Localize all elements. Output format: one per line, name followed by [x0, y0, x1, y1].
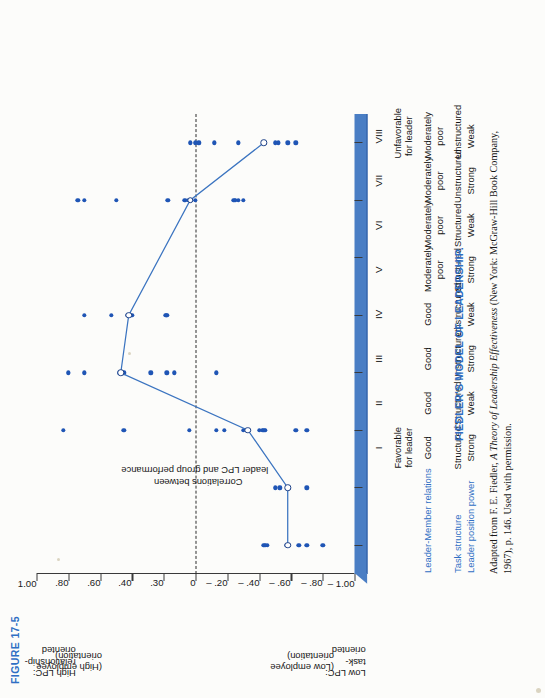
y-axis-tick-label: .30	[150, 578, 163, 589]
y-axis-tick-label: – .60	[269, 578, 290, 589]
cell-line: for leader	[402, 114, 413, 159]
x-axis-tick	[354, 545, 362, 546]
source-note: Adapted from F. E. Fiedler, A Theory of …	[486, 104, 515, 574]
favorability-v	[391, 248, 422, 293]
cell-line: Unfavorable	[391, 114, 402, 159]
y-axis-tick-label: 1.00	[17, 578, 36, 589]
leader-member-relations-viii: Moderatelypoor	[421, 114, 444, 159]
y-axis-tick-label: – .80	[301, 578, 322, 589]
median-marker	[125, 312, 131, 318]
y-axis-tick	[131, 574, 132, 581]
x-axis-tick	[354, 200, 362, 201]
cell-line: poor	[433, 114, 444, 159]
row-label-favorability	[391, 470, 422, 574]
cell-line: poor	[433, 159, 444, 204]
figure-title: FIEDLER'S MODEL OF LEADERSHIP.	[452, 114, 464, 574]
figure-number-label: FIGURE 17-5	[8, 616, 20, 684]
leader-member-relations-iii: Good	[421, 337, 444, 382]
row-label-blank	[372, 470, 391, 574]
y-axis-tick-label: 0	[190, 578, 195, 589]
favorability-iv	[391, 292, 422, 337]
leader-member-relations-iv: Good	[421, 292, 444, 337]
y-axis-tick-label: .60	[86, 578, 99, 589]
favorability-vi	[391, 203, 422, 248]
plot-area: 1.00.80.60.40.300– .20– .40– .60– .80– 1…	[36, 114, 354, 574]
y-axis-tick-label: – .40	[237, 578, 258, 589]
cell-line: Moderately	[421, 114, 432, 159]
favorability-iii	[391, 337, 422, 382]
cell-line: for leader	[402, 426, 413, 471]
octant-numeral-iii: III	[372, 337, 391, 382]
cell-line: Moderately	[421, 203, 432, 248]
favorability-ii	[391, 381, 422, 426]
x-axis-band	[354, 114, 367, 574]
y-axis-tick-label: .80	[54, 578, 67, 589]
x-axis-tick	[354, 430, 362, 431]
table-row-octant-numerals: IIIIIIIVVVIVIIVIII	[372, 114, 391, 574]
y-axis-tick-label: – 1.00	[327, 578, 354, 589]
leader-member-relations-vii: Moderatelypoor	[421, 159, 444, 204]
octant-numeral-i: I	[372, 426, 391, 471]
octant-numeral-viii: VIII	[372, 114, 391, 159]
x-axis-tick	[354, 372, 362, 373]
x-axis-tick	[354, 487, 362, 488]
median-marker	[260, 140, 266, 146]
leader-member-relations-ii: Good	[421, 381, 444, 426]
x-axis-tick	[354, 142, 362, 143]
source-note-prefix: Adapted from F. E. Fiedler,	[487, 460, 498, 574]
favorability-i: Favorablefor leader	[391, 426, 422, 471]
source-note-title: A Theory of Leadership Effectiveness	[487, 308, 498, 460]
median-marker	[117, 370, 123, 376]
figure-page: FIGURE 17-5 1.00.80.60.40.300– .20– .40–…	[0, 0, 545, 698]
favorability-vii	[391, 159, 422, 204]
x-axis-tick	[354, 257, 362, 258]
octant-numeral-ii: II	[372, 381, 391, 426]
median-marker	[244, 427, 250, 433]
octant-numeral-iv: IV	[372, 292, 391, 337]
y-axis-tick	[290, 574, 291, 581]
x-axis-band-bevel	[354, 573, 367, 584]
leader-member-relations-v: Moderatelypoor	[421, 248, 444, 293]
octant-numeral-v: V	[372, 248, 391, 293]
leader-member-relations-i: Good	[421, 426, 444, 471]
median-marker	[284, 542, 290, 548]
y-axis-tick-label: .40	[118, 578, 131, 589]
row-label-leader-member-relations: Leader-Member relations	[421, 470, 444, 574]
rotated-figure-container: FIGURE 17-5 1.00.80.60.40.300– .20– .40–…	[0, 0, 545, 698]
scatter-plot: 1.00.80.60.40.300– .20– .40– .60– .80– 1…	[36, 114, 354, 574]
median-marker	[186, 197, 192, 203]
table-row-leader-member-relations: Leader-Member relations GoodGoodGoodGood…	[421, 114, 444, 574]
cell-line: Favorable	[391, 426, 402, 471]
median-connector-line	[36, 114, 354, 574]
leader-member-relations-vi: Moderatelypoor	[421, 203, 444, 248]
favorability-viii: Unfavorablefor leader	[391, 114, 422, 159]
table-row-favorability: Favorablefor leaderUnfavorablefor leader	[391, 114, 422, 574]
cell-line: poor	[433, 203, 444, 248]
octant-numeral-vii: VII	[372, 159, 391, 204]
cell-line: Moderately	[421, 248, 432, 293]
x-axis-band-highlight	[366, 114, 367, 574]
cell-line: poor	[433, 248, 444, 293]
y-axis-tick-label: – .20	[205, 578, 226, 589]
cell-line: Moderately	[421, 159, 432, 204]
median-marker	[284, 485, 290, 491]
x-axis-tick	[354, 315, 362, 316]
octant-numeral-vi: VI	[372, 203, 391, 248]
